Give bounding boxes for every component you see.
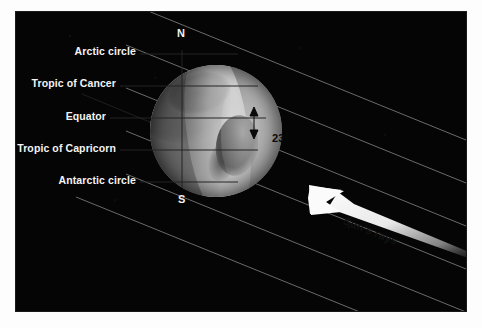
label-antarctic-circle: Antarctic circle — [59, 174, 136, 186]
tilt-angle-arrow — [250, 107, 258, 139]
north-pole-label: N — [177, 27, 185, 39]
label-equator: Equator — [66, 110, 106, 122]
south-pole-label: S — [178, 193, 186, 205]
night-sky-panel: N S Arctic circle Tropic of Cancer Equat… — [16, 12, 466, 311]
tilt-angle-label: 23° — [272, 132, 289, 144]
label-tropic-of-capricorn: Tropic of Capricorn — [17, 142, 116, 154]
label-arctic-circle: Arctic circle — [75, 45, 136, 57]
sun-rays-arrow: Sun's rays — [308, 184, 466, 258]
diagram-figure: N S Arctic circle Tropic of Cancer Equat… — [0, 0, 482, 328]
label-tropic-of-cancer: Tropic of Cancer — [32, 77, 116, 89]
